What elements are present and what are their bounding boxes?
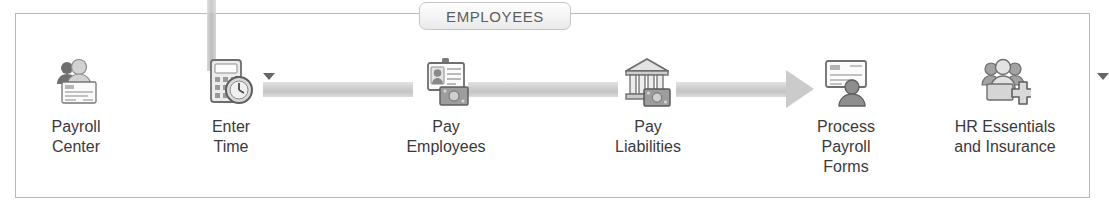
workflow-item-pay-liabilities[interactable]: Pay Liabilities (573, 56, 723, 157)
workflow-item-label: Pay Liabilities (615, 117, 681, 157)
workflow-item-enter-time[interactable]: Enter Time (171, 56, 291, 157)
workflow-item-payroll-center[interactable]: Payroll Center (16, 56, 136, 157)
workflow-item-process-payroll-forms[interactable]: Process Payroll Forms (786, 56, 906, 177)
workflow-item-label: Payroll Center (52, 117, 101, 157)
payroll-center-icon (50, 56, 102, 108)
chevron-down-icon[interactable] (263, 73, 275, 80)
process-payroll-forms-icon (820, 56, 872, 108)
pay-employees-icon (420, 56, 472, 108)
workflow-item-hr-essentials-and-insurance[interactable]: HR Essentials and Insurance (921, 56, 1089, 157)
pay-liabilities-icon-row (622, 56, 674, 108)
tab-connector-stub (207, 0, 216, 14)
enter-time-icon-row (205, 56, 257, 108)
workflow-items: Payroll Center (16, 14, 1089, 197)
hr-essentials-icon (979, 56, 1031, 108)
pay-liabilities-icon (622, 56, 674, 108)
workflow-item-label: Pay Employees (406, 117, 485, 157)
hr-essentials-icon-row (979, 56, 1031, 108)
workflow-item-pay-employees[interactable]: Pay Employees (371, 56, 521, 157)
workflow-item-label: Process Payroll Forms (817, 117, 875, 177)
payroll-center-icon-row (50, 56, 102, 108)
process-payroll-forms-icon-row (820, 56, 872, 108)
tab-employees-label: EMPLOYEES (446, 8, 544, 25)
pay-employees-icon-row (420, 56, 472, 108)
chevron-down-icon[interactable] (1097, 73, 1109, 80)
enter-time-icon (205, 56, 257, 108)
tab-employees[interactable]: EMPLOYEES (419, 2, 571, 30)
workflow-item-label: Enter Time (212, 117, 250, 157)
workflow-item-label: HR Essentials and Insurance (954, 117, 1055, 157)
